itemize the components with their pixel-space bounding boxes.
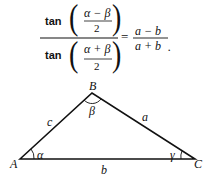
angle-alpha-label: α	[37, 148, 43, 163]
angle-gamma-label: γ	[170, 148, 175, 163]
triangle-diagram	[0, 0, 217, 182]
side-c-label: c	[47, 115, 52, 130]
side-a-label: a	[142, 110, 148, 125]
vertex-a-label: A	[10, 157, 17, 172]
angle-beta-label: β	[89, 104, 95, 119]
angle-gamma-arc	[181, 151, 182, 159]
vertex-c-label: C	[194, 157, 202, 172]
angle-alpha-arc	[31, 149, 34, 159]
angle-beta-arc	[84, 99, 101, 104]
side-b-label: b	[101, 163, 107, 178]
vertex-b-label: B	[89, 79, 96, 94]
